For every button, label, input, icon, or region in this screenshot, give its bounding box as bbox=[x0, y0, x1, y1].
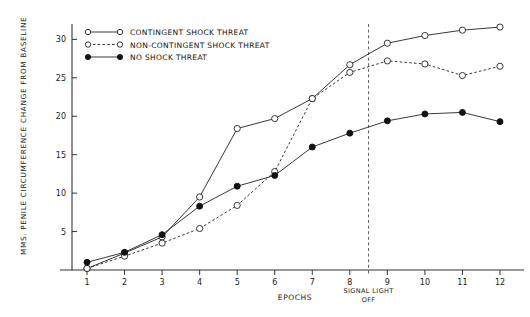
legend-marker bbox=[117, 54, 122, 59]
series-line-2 bbox=[87, 61, 500, 269]
x-tick-label: 3 bbox=[160, 278, 165, 287]
data-point bbox=[234, 202, 240, 208]
data-point bbox=[84, 265, 90, 271]
x-tick-label: 7 bbox=[310, 278, 315, 287]
data-point bbox=[272, 115, 278, 121]
line-chart: MMS. PENILE CIRCUMFERENCE CHANGE FROM BA… bbox=[0, 0, 530, 317]
series-line-1 bbox=[87, 27, 500, 268]
legend-item-3: NO SHOCK THREAT bbox=[85, 53, 207, 62]
data-point bbox=[459, 109, 465, 115]
x-axis-ticks: 123456789101112 bbox=[84, 270, 505, 287]
y-tick-label: 5 bbox=[61, 228, 66, 237]
x-tick-label: 9 bbox=[385, 278, 390, 287]
x-tick-label: 2 bbox=[122, 278, 127, 287]
data-point bbox=[309, 144, 315, 150]
x-tick-label: 4 bbox=[197, 278, 202, 287]
data-point bbox=[384, 58, 390, 64]
signal-light-off-label-line2: OFF bbox=[362, 296, 376, 304]
data-point bbox=[197, 225, 203, 231]
legend-marker bbox=[85, 29, 90, 34]
y-tick-label: 30 bbox=[56, 35, 66, 44]
data-point bbox=[384, 118, 390, 124]
x-tick-label: 11 bbox=[457, 278, 467, 287]
data-point bbox=[459, 27, 465, 33]
data-point bbox=[497, 119, 503, 125]
chart-legend: CONTINGENT SHOCK THREATNON-CONTINGENT SH… bbox=[85, 28, 269, 62]
data-point bbox=[197, 203, 203, 209]
data-point bbox=[347, 69, 353, 75]
data-point bbox=[84, 259, 90, 265]
x-tick-label: 6 bbox=[272, 278, 277, 287]
series-2 bbox=[84, 58, 503, 272]
data-point bbox=[422, 32, 428, 38]
data-point bbox=[234, 183, 240, 189]
legend-label-3: NO SHOCK THREAT bbox=[130, 53, 207, 62]
data-point bbox=[234, 125, 240, 131]
data-point bbox=[309, 95, 315, 101]
legend-marker bbox=[117, 42, 122, 47]
legend-marker bbox=[117, 29, 122, 34]
data-point bbox=[159, 232, 165, 238]
legend-label-1: CONTINGENT SHOCK THREAT bbox=[130, 28, 249, 37]
series-3 bbox=[84, 109, 503, 265]
legend-item-1: CONTINGENT SHOCK THREAT bbox=[85, 28, 248, 37]
data-point bbox=[347, 62, 353, 68]
y-axis-title: MMS. PENILE CIRCUMFERENCE CHANGE FROM BA… bbox=[19, 17, 28, 255]
data-point bbox=[159, 240, 165, 246]
data-point bbox=[272, 172, 278, 178]
data-point bbox=[497, 24, 503, 30]
chart-container: MMS. PENILE CIRCUMFERENCE CHANGE FROM BA… bbox=[0, 0, 530, 317]
x-tick-label: 10 bbox=[420, 278, 430, 287]
y-tick-label: 10 bbox=[56, 189, 66, 198]
x-tick-label: 12 bbox=[495, 278, 505, 287]
data-point bbox=[197, 194, 203, 200]
data-point bbox=[459, 72, 465, 78]
x-axis-title: EPOCHS bbox=[278, 293, 312, 302]
y-tick-label: 15 bbox=[56, 151, 66, 160]
data-point bbox=[384, 40, 390, 46]
x-tick-label: 5 bbox=[235, 278, 240, 287]
legend-label-2: NON-CONTINGENT SHOCK THREAT bbox=[130, 41, 270, 50]
data-point bbox=[347, 130, 353, 136]
legend-item-2: NON-CONTINGENT SHOCK THREAT bbox=[85, 41, 269, 50]
signal-light-off-label-line1: SIGNAL LIGHT bbox=[343, 287, 393, 295]
data-point bbox=[422, 111, 428, 117]
data-point bbox=[122, 249, 128, 255]
x-tick-label: 1 bbox=[84, 278, 89, 287]
y-tick-label: 20 bbox=[56, 112, 66, 121]
x-tick-label: 8 bbox=[347, 278, 352, 287]
legend-marker bbox=[85, 54, 90, 59]
legend-marker bbox=[85, 42, 90, 47]
y-axis-ticks: 51015202530 bbox=[56, 35, 77, 236]
y-tick-label: 25 bbox=[56, 74, 66, 83]
data-point bbox=[422, 61, 428, 67]
data-point bbox=[497, 63, 503, 69]
